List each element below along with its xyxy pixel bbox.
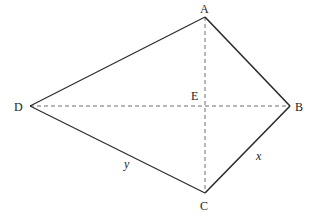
vertex-label-a: A	[200, 2, 209, 16]
kite-diagram: A B C D E x y	[0, 0, 313, 218]
vertex-label-c: C	[200, 199, 208, 213]
side-da	[30, 17, 205, 106]
side-label-y: y	[123, 157, 130, 171]
vertex-label-e: E	[191, 89, 198, 103]
side-cd	[30, 106, 205, 193]
vertex-label-b: B	[295, 100, 303, 114]
side-bc	[205, 106, 290, 193]
vertex-label-d: D	[14, 100, 23, 114]
side-ab	[205, 17, 290, 106]
side-label-x: x	[255, 149, 262, 163]
